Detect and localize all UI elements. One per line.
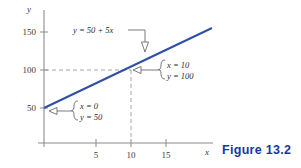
figure-caption: Figure 13.2	[222, 143, 291, 157]
intersection-arrowhead-left-icon	[133, 67, 141, 74]
equation-arrowhead-down-icon	[142, 42, 149, 52]
intercept-callout-y: y = 50	[79, 112, 103, 122]
intercept-callout-x: x = 0	[79, 101, 99, 111]
y-tick-label-150: 150	[23, 27, 37, 37]
y-tick-label-100: 100	[23, 65, 37, 75]
x-axis-label: x	[204, 147, 209, 157]
equation-label: y = 50 + 5x	[72, 25, 113, 35]
x-tick-label-5: 5	[94, 150, 99, 160]
y-axis-label: y	[26, 4, 31, 14]
intersection-brace-icon	[159, 60, 166, 79]
x-tick-label-15: 15	[162, 150, 172, 160]
figure-container: 150 100 50 5 10 15 y x y = 50 + 5x x = 1…	[0, 0, 301, 168]
intersection-callout-y: y = 100	[166, 71, 194, 81]
y-tick-label-50: 50	[27, 103, 37, 113]
intersection-callout-x: x = 10	[166, 60, 190, 70]
intercept-arrowhead-left-icon	[49, 108, 57, 115]
intercept-brace-icon	[72, 101, 79, 120]
equation-leader-line	[128, 30, 145, 42]
x-tick-label-10: 10	[127, 150, 137, 160]
